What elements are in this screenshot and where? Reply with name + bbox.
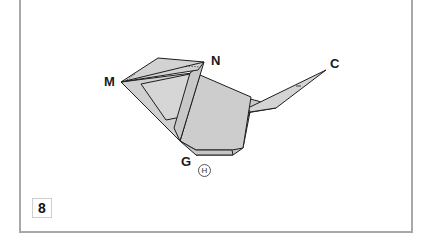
tail-point-c: [248, 70, 326, 112]
point-label-m: M: [104, 75, 115, 88]
step-number-box: 8: [32, 198, 52, 218]
origami-figure: [0, 0, 431, 246]
point-label-h-circled: H: [198, 164, 211, 177]
point-label-g: G: [181, 155, 191, 168]
point-label-n: N: [211, 54, 220, 67]
point-label-c: C: [330, 57, 339, 70]
